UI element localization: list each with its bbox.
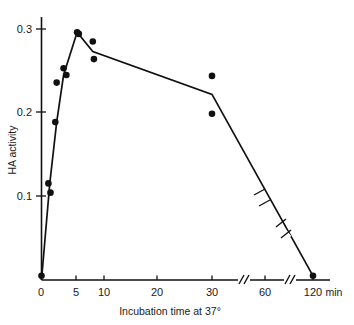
data-point bbox=[52, 119, 59, 126]
chart-figure: 0.3 0.2 0.1 bbox=[0, 0, 354, 325]
x-tick-label-60: 60 bbox=[259, 286, 271, 298]
y-tick-label-0.1: 0.1 bbox=[17, 190, 32, 202]
ha-activity-line-chart: 0.3 0.2 0.1 bbox=[0, 0, 354, 325]
x-axis-title: Incubation time at 37° bbox=[119, 305, 221, 317]
data-point bbox=[60, 65, 67, 72]
data-point bbox=[310, 273, 317, 280]
series-line-break-2 bbox=[276, 219, 291, 238]
data-point bbox=[90, 38, 97, 45]
data-point bbox=[76, 31, 83, 38]
series-line-break-marks bbox=[254, 189, 291, 238]
data-point bbox=[209, 73, 216, 80]
x-tick-label-5: 5 bbox=[73, 286, 79, 298]
y-axis-tick-labels: 0.3 0.2 0.1 bbox=[17, 23, 32, 202]
y-tick-label-0.2: 0.2 bbox=[17, 106, 32, 118]
x-tick-label-120: 120 bbox=[304, 286, 322, 298]
data-point bbox=[63, 72, 70, 79]
x-tick-label-10: 10 bbox=[98, 286, 110, 298]
x-axis-break-2 bbox=[284, 275, 296, 284]
x-tick-label-0: 0 bbox=[38, 286, 44, 298]
data-point bbox=[47, 189, 54, 196]
series-line-break-1 bbox=[254, 189, 270, 206]
data-point bbox=[53, 79, 60, 86]
data-point bbox=[209, 110, 216, 117]
data-point-group bbox=[38, 29, 316, 279]
x-axis-unit-label: min bbox=[326, 286, 343, 298]
data-point bbox=[91, 56, 98, 63]
data-point bbox=[38, 273, 45, 280]
data-series-line bbox=[42, 32, 314, 280]
y-axis-title: HA activity bbox=[6, 125, 18, 175]
x-axis-break-1 bbox=[238, 275, 250, 284]
y-tick-label-0.3: 0.3 bbox=[17, 23, 32, 35]
x-tick-label-30: 30 bbox=[206, 286, 218, 298]
x-axis-tick-labels: 0 5 10 20 30 60 120 min bbox=[38, 286, 343, 298]
data-point bbox=[45, 180, 52, 187]
x-tick-label-20: 20 bbox=[151, 286, 163, 298]
